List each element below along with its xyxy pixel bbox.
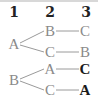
edge-tree1-root-branch2 (20, 45, 44, 52)
tree1-branch1-node: B (45, 23, 55, 39)
tree1-branch2-leaf-node: B (80, 44, 90, 60)
tree2-branch2-leaf-node: A (80, 82, 91, 96)
edge-tree2-root-branch1 (20, 69, 44, 79)
tree1-root-node: A (9, 36, 20, 52)
tree2-branch1-node: A (45, 61, 56, 77)
level-label-2: 2 (45, 4, 55, 20)
tree-diagram: 1 2 3 A B C C B B A C C A (0, 0, 98, 96)
edge-tree1-root-branch1 (20, 31, 44, 43)
tree1-branch1-leaf-node: C (80, 23, 90, 39)
edge-tree2-root-branch2 (20, 81, 44, 90)
tree2-branch1-leaf-node: C (80, 61, 91, 77)
tree2-root-node: B (9, 72, 19, 88)
tree1-branch2-node: C (45, 44, 55, 60)
tree2-branch2-node: C (45, 82, 55, 96)
level-label-3: 3 (81, 4, 91, 20)
level-label-1: 1 (9, 4, 19, 20)
